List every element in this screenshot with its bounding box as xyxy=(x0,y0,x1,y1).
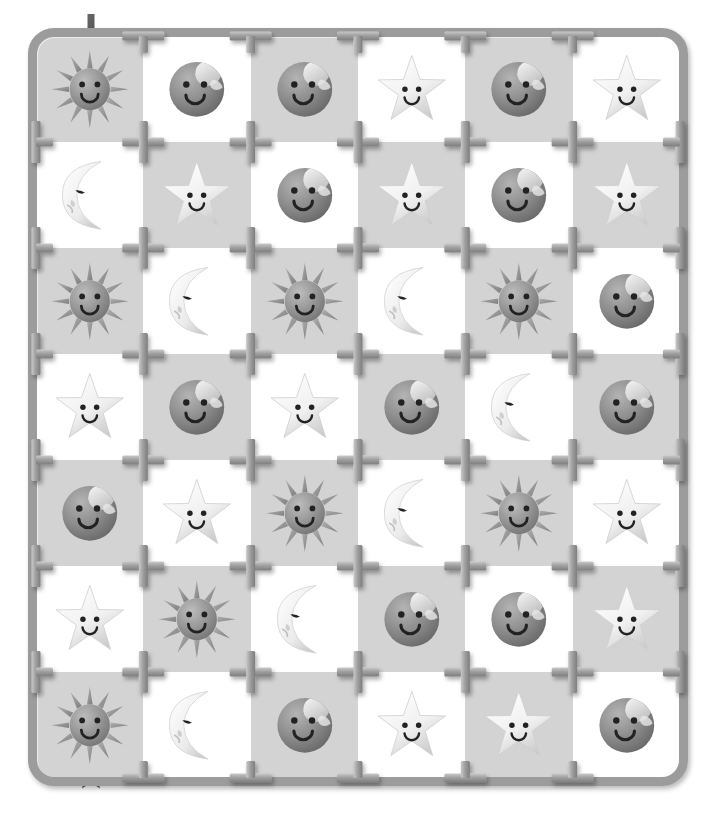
cell-button-r1c3[interactable] xyxy=(251,36,358,142)
cell-button-r1c2[interactable] xyxy=(143,36,250,142)
cell-hit-layer xyxy=(36,36,680,778)
cell-button-r3c6[interactable] xyxy=(573,248,680,354)
cell-button-r5c2[interactable] xyxy=(143,460,250,566)
cell-button-r6c2[interactable] xyxy=(143,566,250,672)
cell-button-r7c1[interactable] xyxy=(36,672,143,778)
cell-button-r5c6[interactable] xyxy=(573,460,680,566)
cell-button-r3c3[interactable] xyxy=(251,248,358,354)
cell-button-r4c6[interactable] xyxy=(573,354,680,460)
cell-button-r5c4[interactable] xyxy=(358,460,465,566)
cell-button-r4c1[interactable] xyxy=(36,354,143,460)
cell-button-r6c5[interactable] xyxy=(465,566,572,672)
cell-button-r3c2[interactable] xyxy=(143,248,250,354)
cell-button-r7c3[interactable] xyxy=(251,672,358,778)
puzzle-canvas xyxy=(0,0,714,814)
cell-button-r5c5[interactable] xyxy=(465,460,572,566)
cell-button-r6c4[interactable] xyxy=(358,566,465,672)
cell-button-r3c1[interactable] xyxy=(36,248,143,354)
cell-button-r2c1[interactable] xyxy=(36,142,143,248)
cell-button-r2c6[interactable] xyxy=(573,142,680,248)
cell-button-r2c3[interactable] xyxy=(251,142,358,248)
cell-button-r6c1[interactable] xyxy=(36,566,143,672)
cell-button-r5c1[interactable] xyxy=(36,460,143,566)
sprue-board xyxy=(36,36,680,778)
cell-button-r6c6[interactable] xyxy=(573,566,680,672)
cell-button-r3c5[interactable] xyxy=(465,248,572,354)
cell-button-r4c3[interactable] xyxy=(251,354,358,460)
cell-button-r7c5[interactable] xyxy=(465,672,572,778)
cell-button-r6c3[interactable] xyxy=(251,566,358,672)
cell-button-r1c4[interactable] xyxy=(358,36,465,142)
cell-button-r3c4[interactable] xyxy=(358,248,465,354)
cell-button-r2c4[interactable] xyxy=(358,142,465,248)
cell-button-r1c6[interactable] xyxy=(573,36,680,142)
cell-button-r4c2[interactable] xyxy=(143,354,250,460)
cell-button-r1c5[interactable] xyxy=(465,36,572,142)
cell-button-r2c5[interactable] xyxy=(465,142,572,248)
cell-button-r7c6[interactable] xyxy=(573,672,680,778)
cell-button-r7c2[interactable] xyxy=(143,672,250,778)
cell-button-r2c2[interactable] xyxy=(143,142,250,248)
cell-button-r5c3[interactable] xyxy=(251,460,358,566)
cell-button-r1c1[interactable] xyxy=(36,36,143,142)
cell-button-r4c5[interactable] xyxy=(465,354,572,460)
cell-button-r7c4[interactable] xyxy=(358,672,465,778)
cell-button-r4c4[interactable] xyxy=(358,354,465,460)
